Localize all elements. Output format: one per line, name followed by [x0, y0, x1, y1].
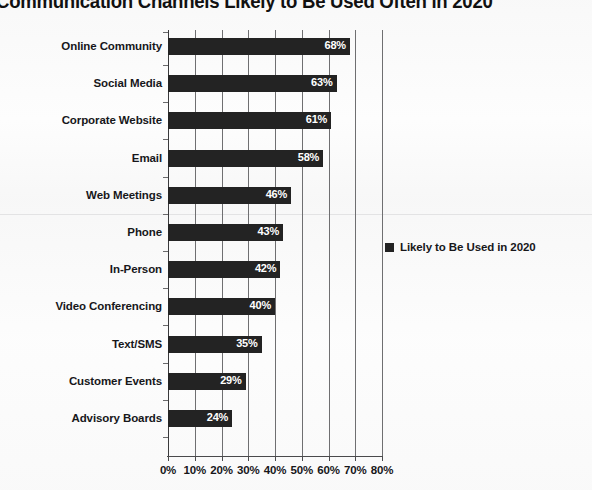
category-label-4: Email — [0, 152, 162, 164]
bar-value-label: 63% — [307, 76, 333, 88]
x-axis-tick-0 — [168, 456, 169, 461]
bar-row: 58% — [168, 150, 382, 167]
category-label-8: Video Conferencing — [0, 300, 162, 312]
category-label-9: Text/SMS — [0, 338, 162, 350]
category-label-11: Advisory Boards — [0, 412, 162, 424]
gridline-30 — [248, 30, 249, 456]
gridline-60 — [329, 30, 330, 456]
bar-value-label: 61% — [301, 113, 327, 125]
bar-row: 24% — [168, 410, 382, 427]
bar-value-label: 35% — [232, 337, 258, 349]
chart-legend: Likely to Be Used in 2020 — [385, 241, 536, 253]
gridline-20 — [222, 30, 223, 456]
x-axis-tick-50 — [302, 456, 303, 461]
x-axis-label-80: 80% — [362, 464, 402, 476]
category-label-7: In-Person — [0, 263, 162, 275]
x-axis-tick-10 — [195, 456, 196, 461]
bar-row: 43% — [168, 224, 382, 241]
category-label-6: Phone — [0, 226, 162, 238]
category-label-1: Online Community — [0, 40, 162, 52]
gridlines — [168, 30, 382, 456]
x-axis-tick-20 — [222, 456, 223, 461]
bar-row: 63% — [168, 75, 382, 92]
bar-value-label: 43% — [253, 225, 279, 237]
category-label-10: Customer Events — [0, 375, 162, 387]
page-title: Communication Channels Likely to Be Used… — [0, 0, 554, 16]
bar-value-label: 58% — [293, 151, 319, 163]
bar-row: 46% — [168, 187, 382, 204]
x-axis-tick-60 — [329, 456, 330, 461]
bar-row: 61% — [168, 112, 382, 129]
bar-value-label: 42% — [250, 262, 276, 274]
category-label-3: Corporate Website — [0, 114, 162, 126]
bar-value-label: 68% — [320, 39, 346, 51]
plot-area: 68%63%61%58%46%43%42%40%35%29%24% — [168, 30, 382, 456]
bar-row: 29% — [168, 373, 382, 390]
legend-entry-label: Likely to Be Used in 2020 — [400, 241, 536, 253]
gridline-80 — [382, 30, 383, 456]
gridline-40 — [275, 30, 276, 456]
bar-value-label: 46% — [261, 188, 287, 200]
x-axis-tick-80 — [382, 456, 383, 461]
x-axis-tick-40 — [275, 456, 276, 461]
x-axis-tick-30 — [248, 456, 249, 461]
bar-row: 40% — [168, 298, 382, 315]
category-label-2: Social Media — [0, 77, 162, 89]
bar-row: 35% — [168, 336, 382, 353]
bar-value-label: 29% — [216, 374, 242, 386]
bar-value-label: 40% — [245, 299, 271, 311]
bar-row: 42% — [168, 261, 382, 278]
gridline-10 — [195, 30, 196, 456]
x-axis-tick-70 — [355, 456, 356, 461]
bar-row: 68% — [168, 38, 382, 55]
gridline-0 — [168, 30, 169, 456]
gridline-50 — [302, 30, 303, 456]
category-label-5: Web Meetings — [0, 189, 162, 201]
gridline-70 — [355, 30, 356, 456]
bar-value-label: 24% — [202, 411, 228, 423]
legend-swatch-icon — [385, 243, 394, 252]
